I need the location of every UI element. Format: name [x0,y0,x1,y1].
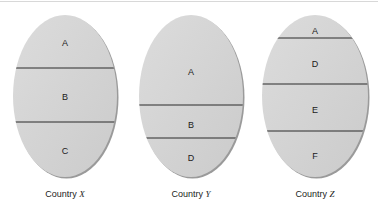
caption-country-y: Country Y [136,189,246,199]
caption-text: Country [295,189,329,199]
caption-variable: X [79,189,85,199]
segment-label-d: D [188,153,195,163]
oval-country-y: ABD [137,15,245,179]
segment-label-c: C [62,146,69,156]
segment-label-d: D [312,59,319,69]
segment-label-a: A [312,26,318,36]
segment-label-b: B [188,120,194,130]
caption-country-z: Country Z [260,189,370,199]
caption-text: Country [171,189,205,199]
caption-country-x: Country X [10,189,120,199]
oval-country-z: ADEF [260,15,370,179]
country-segmentation-diagram: ABCABDADEF [0,0,378,212]
caption-variable: Z [330,189,335,199]
oval-country-x: ABC [11,15,119,179]
caption-text: Country [45,189,79,199]
segment-label-a: A [62,38,68,48]
caption-variable: Y [206,189,211,199]
segment-label-f: F [312,151,318,161]
segment-label-a: A [188,67,194,77]
segment-label-b: B [62,92,68,102]
segment-label-e: E [312,105,318,115]
